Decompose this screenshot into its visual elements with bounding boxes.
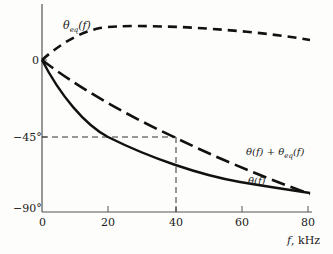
label-theta-eq: θeq(f) (63, 20, 91, 34)
x-tick-label-40: 40 (169, 217, 183, 228)
y-ticks (42, 60, 47, 137)
phase-chart: θeq(f) θ(f) + θeq(f) θ(f) 0 −45° −90° 0 … (0, 0, 333, 254)
x-axis-label: f, kHz (287, 235, 320, 246)
y-tick-label-0: 0 (32, 55, 39, 66)
y-tick-label-minus90: −90° (13, 203, 42, 214)
x-tick-label-80: 80 (301, 217, 315, 228)
series-theta-plus-theta-eq (42, 60, 310, 194)
x-tick-label-60: 60 (235, 217, 249, 228)
y-tick-label-minus45: −45° (13, 132, 42, 143)
chart-plot (0, 0, 333, 254)
x-tick-label-20: 20 (101, 217, 115, 228)
x-tick-label-0: 0 (39, 217, 46, 228)
x-ticks (108, 206, 308, 212)
label-theta-plus-theta-eq: θ(f) + θeq(f) (246, 147, 304, 160)
series-theta (42, 60, 310, 193)
label-theta: θ(f) (248, 176, 266, 186)
